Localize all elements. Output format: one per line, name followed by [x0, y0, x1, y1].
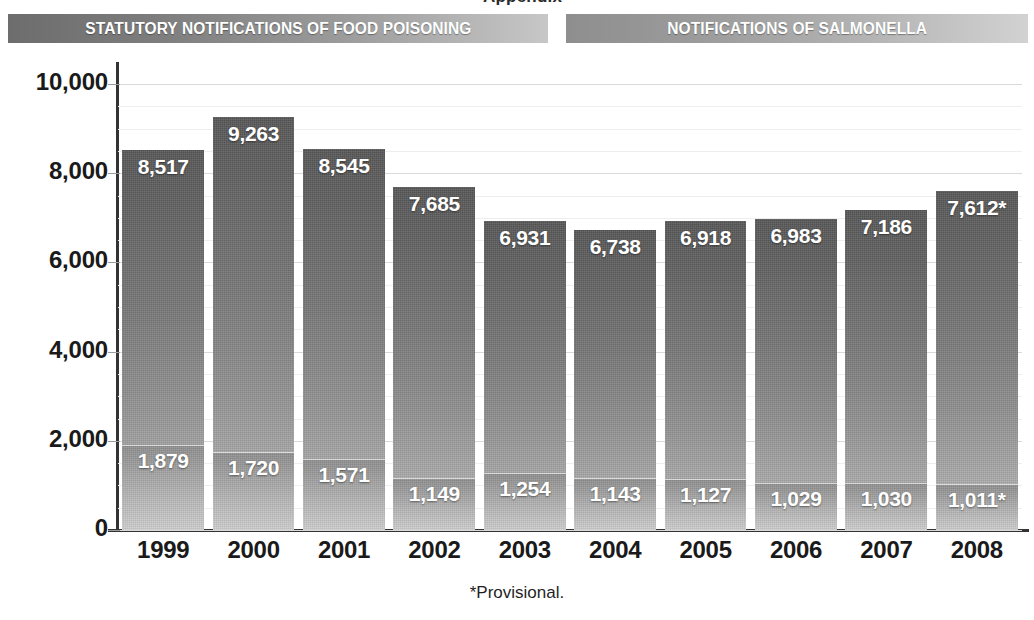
bar-value-label-salmonella: 1,149 — [393, 482, 475, 506]
x-axis-label: 2000 — [208, 536, 298, 564]
bar-value-label-salmonella: 1,571 — [303, 463, 385, 487]
bar-salmonella[interactable]: 1,127 — [665, 479, 747, 530]
bar-value-label-food-poisoning: 6,983 — [755, 224, 837, 248]
legend-label-salmonella: NOTIFICATIONS OF SALMONELLA — [667, 19, 927, 38]
bar-food-poisoning[interactable]: 7,612* — [936, 191, 1018, 530]
chart-legend: STATUTORY NOTIFICATIONS OF FOOD POISONIN… — [0, 14, 1034, 43]
bar-salmonella[interactable]: 1,254 — [484, 473, 566, 530]
bar-group[interactable]: 7,612*1,011* — [936, 84, 1018, 530]
x-axis-label: 2006 — [751, 536, 841, 564]
x-axis-label: 2007 — [841, 536, 931, 564]
chart-page: Appendix STATUTORY NOTIFICATIONS OF FOOD… — [0, 0, 1034, 620]
bar-value-label-food-poisoning: 7,612* — [936, 196, 1018, 220]
bar-value-label-food-poisoning: 6,738 — [574, 235, 656, 259]
bar-food-poisoning[interactable]: 7,186 — [845, 210, 927, 530]
bar-value-label-food-poisoning: 7,685 — [393, 192, 475, 216]
bar-salmonella[interactable]: 1,149 — [393, 478, 475, 530]
bar-group[interactable]: 9,2631,720 — [213, 84, 295, 530]
x-axis-label: 1999 — [118, 536, 208, 564]
bar-value-label-salmonella: 1,254 — [484, 477, 566, 501]
bar-texture — [936, 191, 1018, 530]
bar-value-label-salmonella: 1,011* — [936, 488, 1018, 512]
bar-salmonella[interactable]: 1,011* — [936, 484, 1018, 530]
plot-area: 8,5171,8799,2631,7208,5451,5717,6851,149… — [118, 84, 1022, 530]
bar-value-label-food-poisoning: 8,545 — [303, 154, 385, 178]
bar-value-label-food-poisoning: 6,931 — [484, 226, 566, 250]
clipped-title-text: Appendix — [483, 0, 562, 7]
x-axis-label: 2004 — [570, 536, 660, 564]
y-axis-label: 4,000 — [4, 336, 108, 364]
bar-salmonella[interactable]: 1,720 — [213, 452, 295, 530]
bar-value-label-food-poisoning: 7,186 — [845, 215, 927, 239]
bar-value-label-food-poisoning: 8,517 — [122, 155, 204, 179]
bar-salmonella[interactable]: 1,879 — [122, 445, 204, 530]
bar-salmonella[interactable]: 1,029 — [755, 483, 837, 530]
bar-salmonella[interactable]: 1,143 — [574, 478, 656, 530]
footnote: *Provisional. — [0, 583, 1034, 603]
bar-group[interactable]: 7,1861,030 — [845, 84, 927, 530]
y-axis-label: 0 — [4, 514, 108, 542]
bar-group[interactable]: 6,9831,029 — [755, 84, 837, 530]
y-axis-labels: 10,0008,0006,0004,0002,0000 — [0, 0, 118, 620]
legend-item-salmonella: NOTIFICATIONS OF SALMONELLA — [566, 14, 1028, 43]
x-axis-label: 2001 — [299, 536, 389, 564]
bar-group[interactable]: 7,6851,149 — [393, 84, 475, 530]
clipped-title-sliver: Appendix — [0, 0, 1034, 9]
bar-value-label-salmonella: 1,030 — [845, 487, 927, 511]
x-axis-label: 2008 — [932, 536, 1022, 564]
y-axis-label: 10,000 — [4, 68, 108, 96]
bar-group[interactable]: 6,7381,143 — [574, 84, 656, 530]
bar-salmonella[interactable]: 1,571 — [303, 459, 385, 530]
x-axis-labels: 1999200020012002200320042005200620072008 — [118, 536, 1022, 570]
bar-salmonella[interactable]: 1,030 — [845, 483, 927, 530]
bar-value-label-salmonella: 1,879 — [122, 449, 204, 473]
bar-texture — [845, 210, 927, 530]
legend-label-food-poisoning: STATUTORY NOTIFICATIONS OF FOOD POISONIN… — [85, 19, 471, 38]
bar-group[interactable]: 8,5171,879 — [122, 84, 204, 530]
bar-group[interactable]: 6,9181,127 — [665, 84, 747, 530]
y-axis-label: 2,000 — [4, 425, 108, 453]
y-axis-label: 6,000 — [4, 246, 108, 274]
bar-series-container: 8,5171,8799,2631,7208,5451,5717,6851,149… — [118, 84, 1022, 530]
x-axis-label: 2005 — [660, 536, 750, 564]
x-axis-label: 2003 — [480, 536, 570, 564]
bar-value-label-salmonella: 1,720 — [213, 456, 295, 480]
bar-value-label-food-poisoning: 9,263 — [213, 122, 295, 146]
bar-value-label-salmonella: 1,143 — [574, 482, 656, 506]
bar-value-label-food-poisoning: 6,918 — [665, 226, 747, 250]
y-axis-label: 8,000 — [4, 157, 108, 185]
x-axis-label: 2002 — [389, 536, 479, 564]
gridline-major — [118, 530, 1022, 531]
bar-value-label-salmonella: 1,127 — [665, 483, 747, 507]
bar-group[interactable]: 8,5451,571 — [303, 84, 385, 530]
bar-group[interactable]: 6,9311,254 — [484, 84, 566, 530]
bar-value-label-salmonella: 1,029 — [755, 487, 837, 511]
